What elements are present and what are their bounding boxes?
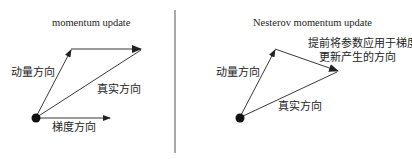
right-momentum-label: 动量方向 — [216, 66, 260, 79]
right-momentum-arrow — [240, 50, 275, 117]
left-gradient-label: 梯度方向 — [52, 121, 96, 134]
right-true-direction-label: 真实方向 — [278, 100, 322, 113]
left-momentum-label: 动量方向 — [11, 66, 55, 79]
right-start-point — [236, 114, 245, 123]
left-true-direction-label: 真实方向 — [97, 83, 141, 96]
left-start-point — [32, 114, 41, 123]
right-lookahead-label-line2: 更新产生的方向 — [308, 50, 406, 64]
right-panel-title: Nesterov momentum update — [253, 16, 372, 29]
right-lookahead-label-line1: 提前将参数应用于梯度 — [308, 36, 406, 50]
left-momentum-arrow — [36, 50, 71, 117]
left-panel-title: momentum update — [52, 16, 130, 29]
right-lookahead-label: 提前将参数应用于梯度 更新产生的方向 — [308, 36, 406, 64]
